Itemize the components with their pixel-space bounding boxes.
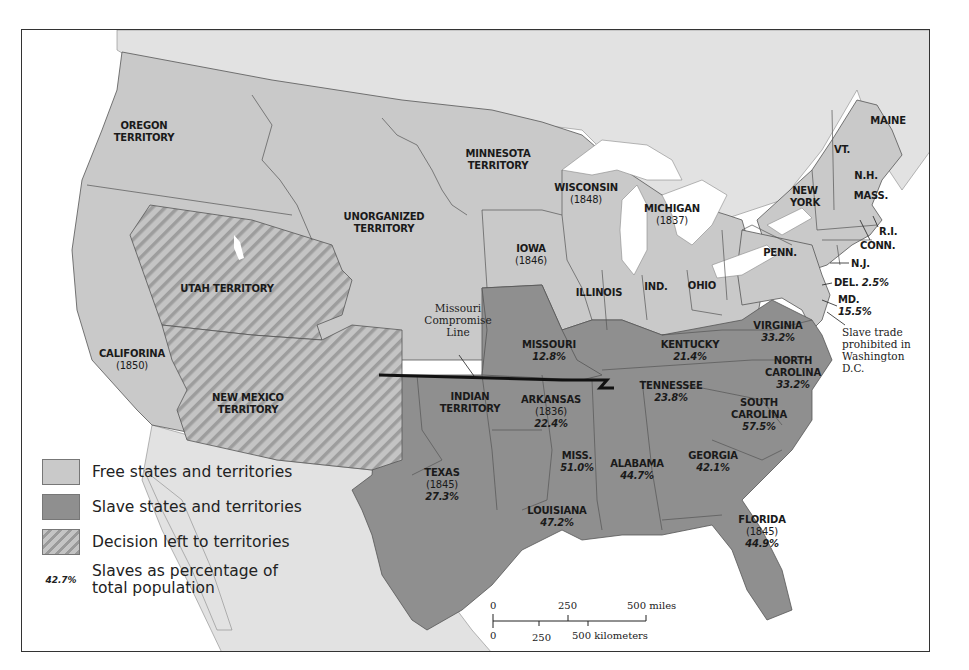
delaware-pct: 2.5% bbox=[862, 277, 889, 288]
legend-item-decision: Decision left to territories bbox=[42, 524, 302, 559]
label-delaware: DEL. 2.5% bbox=[834, 277, 889, 289]
label-maryland: MD.15.5% bbox=[838, 294, 872, 318]
label-ohio: OHIO bbox=[688, 280, 716, 292]
label-indian-territory: INDIANTERRITORY bbox=[440, 391, 501, 415]
label-illinois: ILLINOIS bbox=[576, 287, 622, 299]
legend-pct-sample: 42.7% bbox=[42, 575, 80, 585]
scale-bar-graphic bbox=[493, 614, 646, 628]
label-rhode-island: R.I. bbox=[879, 226, 897, 238]
label-new-jersey: N.J. bbox=[851, 258, 870, 270]
label-unorganized-territory: UNORGANIZEDTERRITORY bbox=[344, 211, 425, 235]
label-georgia: GEORGIA42.1% bbox=[688, 450, 738, 474]
label-texas: TEXAS(1845)27.3% bbox=[424, 467, 459, 503]
legend-item-slave: Slave states and territories bbox=[42, 489, 302, 524]
label-oregon-territory: OREGONTERRITORY bbox=[114, 120, 175, 144]
label-arkansas: ARKANSAS(1836)22.4% bbox=[521, 394, 581, 430]
label-iowa: IOWA(1846) bbox=[515, 243, 547, 267]
legend-item-free: Free states and territories bbox=[42, 454, 302, 489]
label-new-hampshire: N.H. bbox=[854, 170, 878, 182]
map-frame: OREGONTERRITORY MINNESOTATERRITORY UNORG… bbox=[21, 29, 930, 652]
label-maine: MAINE bbox=[870, 115, 906, 127]
label-florida: FLORIDA(1845)44.9% bbox=[738, 514, 785, 550]
decision-swatch bbox=[42, 529, 80, 555]
slave-swatch bbox=[42, 494, 80, 520]
label-california: CALIFORINA(1850) bbox=[99, 348, 165, 372]
label-michigan: MICHIGAN(1837) bbox=[644, 203, 700, 227]
label-new-mexico-territory: NEW MEXICOTERRITORY bbox=[212, 392, 284, 416]
label-louisiana: LOUISIANA47.2% bbox=[527, 505, 586, 529]
label-utah-territory: UTAH TERRITORY bbox=[180, 283, 273, 295]
label-new-york: NEWYORK bbox=[790, 185, 820, 209]
label-missouri: MISSOURI12.8% bbox=[522, 339, 576, 363]
label-alabama: ALABAMA44.7% bbox=[610, 458, 664, 482]
label-connecticut: CONN. bbox=[860, 240, 895, 252]
annotation-dc-slave-trade: Slave tradeprohibited inWashington D.C. bbox=[842, 326, 929, 374]
label-tennessee: TENNESSEE23.8% bbox=[639, 380, 702, 404]
map-legend: Free states and territories Slave states… bbox=[42, 454, 302, 597]
free-swatch bbox=[42, 459, 80, 485]
label-massachusetts: MASS. bbox=[854, 190, 888, 202]
label-minnesota-territory: MINNESOTATERRITORY bbox=[466, 148, 531, 172]
annotation-missouri-compromise-line: MissouriCompromiseLine bbox=[424, 302, 491, 338]
label-south-carolina: SOUTHCAROLINA57.5% bbox=[731, 397, 787, 433]
legend-item-percentage: 42.7% Slaves as percentage oftotal popul… bbox=[42, 563, 302, 597]
label-indiana: IND. bbox=[644, 281, 667, 293]
label-mississippi: MISS.51.0% bbox=[560, 450, 594, 474]
label-wisconsin: WISCONSIN(1848) bbox=[554, 182, 618, 206]
label-kentucky: KENTUCKY21.4% bbox=[661, 339, 720, 363]
label-penn: PENN. bbox=[763, 247, 797, 259]
label-vermont: VT. bbox=[834, 144, 850, 156]
label-north-carolina: NORTHCAROLINA33.2% bbox=[765, 355, 821, 391]
label-virginia: VIRGINIA33.2% bbox=[753, 320, 802, 344]
